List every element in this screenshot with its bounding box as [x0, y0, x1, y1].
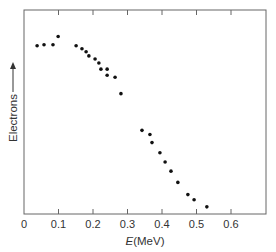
data-points — [35, 35, 208, 209]
data-point — [35, 44, 39, 48]
data-point — [119, 92, 123, 96]
data-point — [99, 67, 103, 71]
x-tick-label: 0.5 — [189, 218, 204, 230]
x-tick-label: 0.4 — [154, 218, 169, 230]
data-point — [158, 151, 162, 155]
data-point — [148, 133, 152, 137]
data-point — [105, 67, 109, 71]
data-point — [163, 160, 167, 164]
data-point — [51, 43, 55, 47]
y-axis-title: Electrons — [7, 94, 19, 142]
y-axis-title-group: Electrons — [7, 62, 19, 142]
up-arrow-icon — [10, 62, 16, 69]
data-point — [192, 198, 196, 202]
electron-energy-chart: 00.10.20.30.40.50.6 E(MeV) Electrons — [0, 0, 276, 252]
x-tick-label: 0.6 — [223, 218, 238, 230]
data-point — [176, 181, 180, 185]
x-tick-label: 0.3 — [120, 218, 135, 230]
top-axis-ticks — [59, 10, 232, 15]
data-point — [84, 50, 88, 54]
data-point — [97, 61, 101, 65]
data-point — [113, 76, 117, 80]
data-point — [56, 35, 60, 39]
data-point — [74, 44, 78, 48]
data-point — [105, 73, 109, 77]
data-point — [205, 205, 209, 209]
x-tick-label: 0.2 — [85, 218, 100, 230]
data-point — [186, 193, 190, 197]
data-point — [87, 54, 91, 58]
data-point — [140, 129, 144, 133]
plot-frame — [24, 10, 266, 214]
x-axis-unit: (MeV) — [133, 235, 164, 247]
x-tick-label: 0 — [21, 218, 27, 230]
x-axis-title: E(MeV) — [126, 235, 165, 247]
x-axis-tick-labels: 00.10.20.30.40.50.6 — [21, 218, 239, 230]
x-tick-label: 0.1 — [51, 218, 66, 230]
data-point — [42, 43, 46, 47]
data-point — [150, 141, 154, 145]
data-point — [169, 169, 173, 173]
x-axis-ticks — [59, 209, 232, 214]
data-point — [80, 47, 84, 51]
data-point — [93, 57, 97, 61]
